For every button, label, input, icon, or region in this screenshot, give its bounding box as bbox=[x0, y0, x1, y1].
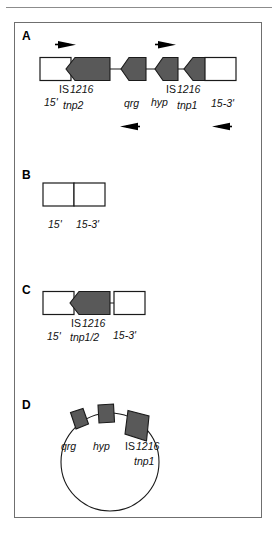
panel-a: A IS bbox=[22, 29, 236, 130]
panel-b: B 15' 15-3' bbox=[22, 168, 105, 230]
panel-d-label-hyp: hyp bbox=[93, 440, 110, 452]
panel-a-label-15-3-prime: 15-3' bbox=[211, 97, 235, 109]
panel-a-label-hyp: hyp bbox=[151, 96, 168, 108]
figure-canvas: A IS bbox=[0, 0, 278, 533]
panel-c-label-tnp1-2: tnp1/2 bbox=[70, 331, 99, 343]
panel-a-label-qrg: qrg bbox=[124, 97, 139, 109]
primer-arrow-forward-1 bbox=[55, 41, 76, 49]
primer-arrow-reverse-2 bbox=[212, 123, 232, 131]
panel-b-right-junction-box bbox=[74, 183, 105, 206]
is-left-label-number: 1216 bbox=[70, 83, 94, 95]
panel-d-is-label-prefix: IS bbox=[125, 440, 135, 452]
primer-arrow-reverse-1 bbox=[120, 123, 140, 131]
panel-c: C IS 1216 15' tnp1/2 15-3' bbox=[22, 283, 145, 343]
panel-letter-b: B bbox=[22, 168, 31, 182]
panel-d-hyp-gene bbox=[98, 404, 115, 423]
panel-b-label-15-prime: 15' bbox=[48, 218, 63, 230]
panel-b-label-15-3-prime: 15-3' bbox=[76, 218, 100, 230]
tnp2-gene bbox=[66, 58, 110, 81]
figure-root: A IS bbox=[0, 0, 278, 533]
panel-d-label-qrg: qrg bbox=[61, 440, 76, 452]
panel-a-label-tnp1: tnp1 bbox=[177, 99, 197, 111]
primer-arrow-forward-2 bbox=[155, 41, 176, 49]
panel-letter-a: A bbox=[22, 29, 31, 43]
panel-d-tnp1-gene bbox=[125, 411, 149, 442]
panel-d-qrg-gene bbox=[71, 409, 89, 430]
panel-c-label-15-3-prime: 15-3' bbox=[113, 329, 137, 341]
panel-d: D qrg hyp IS 1216 tnp1 bbox=[22, 398, 160, 511]
panel-d-is-label-number: 1216 bbox=[136, 440, 160, 452]
panel-c-label-15-prime: 15' bbox=[47, 330, 62, 342]
is-right-label-prefix: IS bbox=[166, 83, 176, 95]
panel-a-label-tnp2: tnp2 bbox=[63, 99, 84, 111]
panel-letter-d: D bbox=[22, 398, 31, 412]
is-element-right-box bbox=[205, 58, 236, 81]
panel-c-right-junction-box bbox=[114, 292, 145, 315]
is-right-label-number: 1216 bbox=[177, 83, 201, 95]
is-left-label-prefix: IS bbox=[59, 83, 69, 95]
panel-d-label-tnp1: tnp1 bbox=[134, 455, 154, 467]
tnp1-2-gene bbox=[70, 292, 110, 315]
hyp-gene bbox=[155, 58, 178, 81]
panel-a-label-15-prime-left: 15' bbox=[44, 96, 59, 108]
panel-letter-c: C bbox=[22, 283, 31, 297]
panel-c-is-label-prefix: IS bbox=[71, 317, 81, 329]
qrg-gene bbox=[121, 58, 146, 81]
panel-c-is-label-number: 1216 bbox=[82, 317, 106, 329]
panel-b-left-junction-box bbox=[43, 183, 74, 206]
